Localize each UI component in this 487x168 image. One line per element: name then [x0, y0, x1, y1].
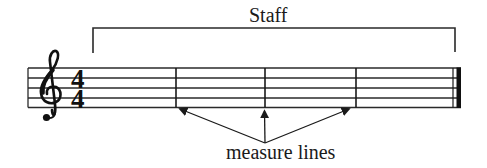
- measure-lines-label: measure lines: [226, 142, 335, 162]
- measure-line-arrows: [180, 109, 349, 143]
- staff-bracket: [93, 28, 455, 53]
- arrow-left-icon: [180, 109, 265, 143]
- treble-clef-ball: [43, 114, 50, 121]
- music-staff-diagram: 4 4 Staff measure lines: [0, 0, 487, 168]
- arrow-right-icon: [265, 109, 349, 143]
- staff-lines: [28, 68, 461, 108]
- arrow-center-icon: [265, 111, 266, 143]
- staff-label: Staff: [249, 5, 288, 25]
- time-signature-denominator: 4: [71, 86, 85, 113]
